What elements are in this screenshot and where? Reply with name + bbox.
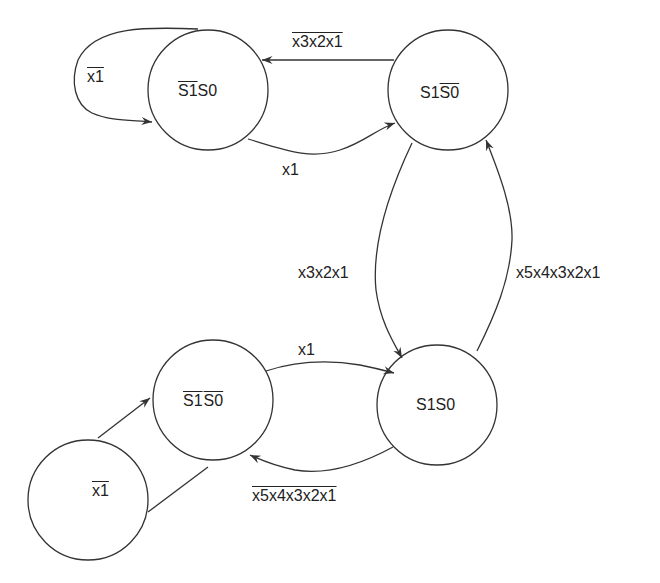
state-c-s1: S1	[183, 392, 203, 409]
edge-b-to-d	[375, 143, 412, 358]
edge-label-b-to-d: x3x2x1	[298, 264, 349, 282]
state-c-label: S1S0	[183, 392, 223, 410]
edge-c-self-in	[98, 398, 150, 438]
state-a-s1: S1	[178, 82, 198, 99]
c-self-loop-circle	[28, 440, 148, 560]
edge-c-self-out	[148, 467, 208, 512]
edge-d-to-c	[250, 447, 393, 471]
edge-label-a-to-b: x1	[282, 161, 299, 179]
edge-label-d-to-c: x5x4x3x2x1	[252, 487, 337, 505]
edge-label-c-self: x1	[92, 482, 109, 500]
state-b-label: S1S0	[420, 84, 459, 102]
edge-label-c-to-d: x1	[298, 341, 315, 359]
state-b-s0: S0	[440, 84, 460, 101]
state-a-s0: S0	[198, 82, 218, 99]
edge-a-to-b	[248, 123, 395, 154]
state-a-label: S1S0 S1S0	[178, 82, 217, 100]
edge-label-b-to-a: x3x2x1	[292, 33, 343, 51]
edge-c-to-d	[266, 362, 394, 373]
state-b-s1: S1	[420, 84, 440, 101]
edge-d-to-b	[477, 140, 512, 351]
edge-label-d-to-b: x5x4x3x2x1	[516, 264, 601, 282]
edge-label-a-self: x1	[87, 68, 104, 86]
state-d-label: S1S0	[416, 396, 455, 414]
state-c-s0: S0	[204, 392, 224, 409]
